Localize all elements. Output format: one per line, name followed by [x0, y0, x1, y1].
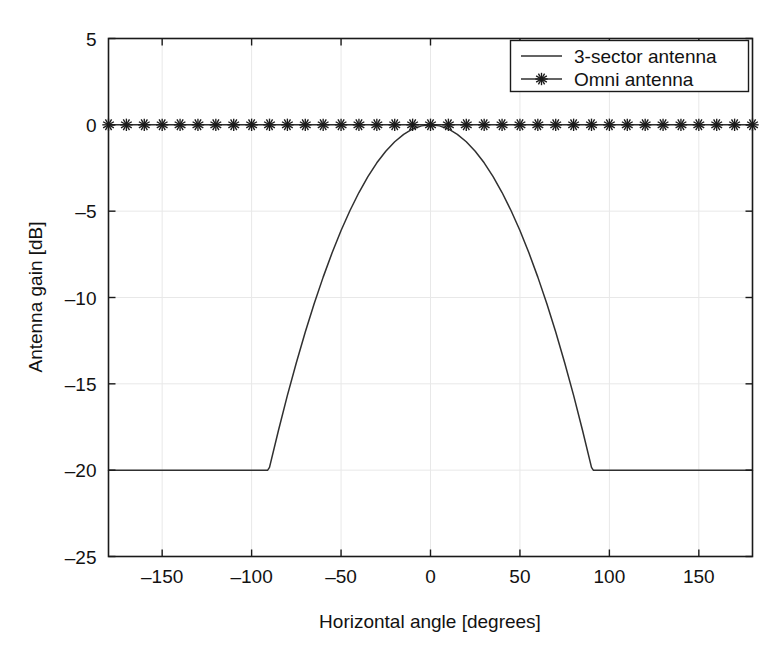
star-marker [281, 119, 293, 131]
star-marker [514, 119, 526, 131]
star-marker [335, 119, 347, 131]
star-marker [228, 119, 240, 131]
y-tick-label: –10 [65, 288, 97, 309]
star-marker [245, 119, 257, 131]
x-tick-label: –150 [141, 566, 183, 587]
x-tick-label: 50 [509, 566, 530, 587]
star-marker [567, 119, 579, 131]
star-marker [460, 119, 472, 131]
antenna-gain-chart: –150–100–50050100150 50–5–10–15–20–25 Ho… [0, 0, 780, 654]
star-marker [406, 119, 418, 131]
x-axis-title: Horizontal angle [degrees] [319, 611, 541, 632]
x-tick-label: 100 [594, 566, 626, 587]
chart-legend: 3-sector antenna Omni antenna [511, 41, 749, 92]
star-marker [693, 119, 705, 131]
star-marker [639, 119, 651, 131]
y-tick-label: –20 [65, 460, 97, 481]
star-marker [210, 119, 222, 131]
star-marker [603, 119, 615, 131]
star-marker [675, 119, 687, 131]
y-tick-label: 5 [86, 29, 97, 50]
y-tick-label: 0 [86, 115, 97, 136]
star-marker [550, 119, 562, 131]
star-marker [317, 119, 329, 131]
star-marker [657, 119, 669, 131]
star-marker [263, 119, 275, 131]
x-tick-labels: –150–100–50050100150 [141, 566, 715, 587]
y-tick-label: –25 [65, 547, 97, 568]
star-marker [496, 119, 508, 131]
x-tick-label: –50 [325, 566, 357, 587]
star-marker [389, 119, 401, 131]
star-marker [371, 119, 383, 131]
x-tick-label: 0 [425, 566, 436, 587]
star-marker [711, 119, 723, 131]
star-marker [353, 119, 365, 131]
x-tick-label: 150 [683, 566, 715, 587]
legend-label-omni: Omni antenna [574, 69, 694, 90]
star-marker [174, 119, 186, 131]
star-marker [728, 119, 740, 131]
star-marker [585, 119, 597, 131]
star-marker [156, 119, 168, 131]
y-tick-label: –5 [75, 201, 96, 222]
gridlines [109, 39, 753, 557]
y-tick-labels: 50–5–10–15–20–25 [65, 29, 97, 568]
star-marker [532, 119, 544, 131]
star-marker [621, 119, 633, 131]
y-axis-title: Antenna gain [dB] [25, 221, 46, 372]
y-tick-label: –15 [65, 374, 97, 395]
star-marker [299, 119, 311, 131]
star-marker [138, 119, 150, 131]
star-marker [120, 119, 132, 131]
legend-label-3-sector: 3-sector antenna [574, 46, 717, 67]
star-marker [442, 119, 454, 131]
star-marker [424, 119, 436, 131]
chart-canvas: –150–100–50050100150 50–5–10–15–20–25 Ho… [0, 0, 780, 654]
star-marker [192, 119, 204, 131]
x-tick-label: –100 [230, 566, 272, 587]
star-marker [478, 119, 490, 131]
